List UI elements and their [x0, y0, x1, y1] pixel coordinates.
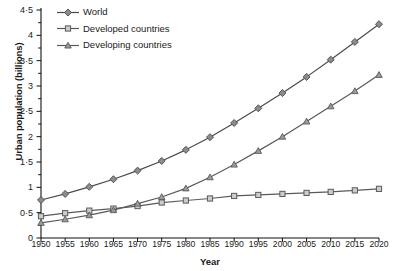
marker-triangle	[279, 133, 286, 139]
marker-diamond	[182, 146, 189, 153]
marker-square	[280, 191, 285, 196]
marker-square	[304, 190, 309, 195]
x-axis-ticks	[41, 238, 379, 242]
marker-square	[38, 214, 43, 219]
y-axis-ticks	[37, 10, 42, 238]
marker-square	[159, 200, 164, 205]
marker-triangle	[303, 118, 310, 124]
marker-triangle	[352, 88, 359, 94]
marker-diamond	[206, 134, 213, 141]
marker-diamond	[37, 196, 44, 203]
marker-square	[232, 193, 237, 198]
marker-triangle	[376, 72, 383, 78]
marker-square	[376, 186, 381, 191]
marker-diamond	[62, 190, 69, 197]
marker-triangle	[231, 161, 238, 167]
marker-triangle	[255, 148, 261, 154]
marker-square	[183, 198, 188, 203]
marker-triangle	[183, 185, 190, 191]
axis-lines	[41, 8, 379, 238]
marker-square	[256, 192, 261, 197]
marker-diamond	[158, 157, 165, 164]
marker-square	[63, 211, 68, 216]
marker-triangle	[207, 174, 214, 180]
marker-triangle	[327, 103, 334, 109]
marker-diamond	[86, 183, 93, 190]
series-developing-countries	[38, 72, 383, 226]
marker-square	[352, 188, 357, 193]
marker-diamond	[279, 90, 286, 97]
marker-diamond	[110, 176, 117, 183]
marker-diamond	[231, 119, 238, 126]
marker-diamond	[134, 167, 141, 174]
marker-square	[328, 189, 333, 194]
marker-diamond	[255, 105, 262, 112]
marker-square	[207, 196, 212, 201]
